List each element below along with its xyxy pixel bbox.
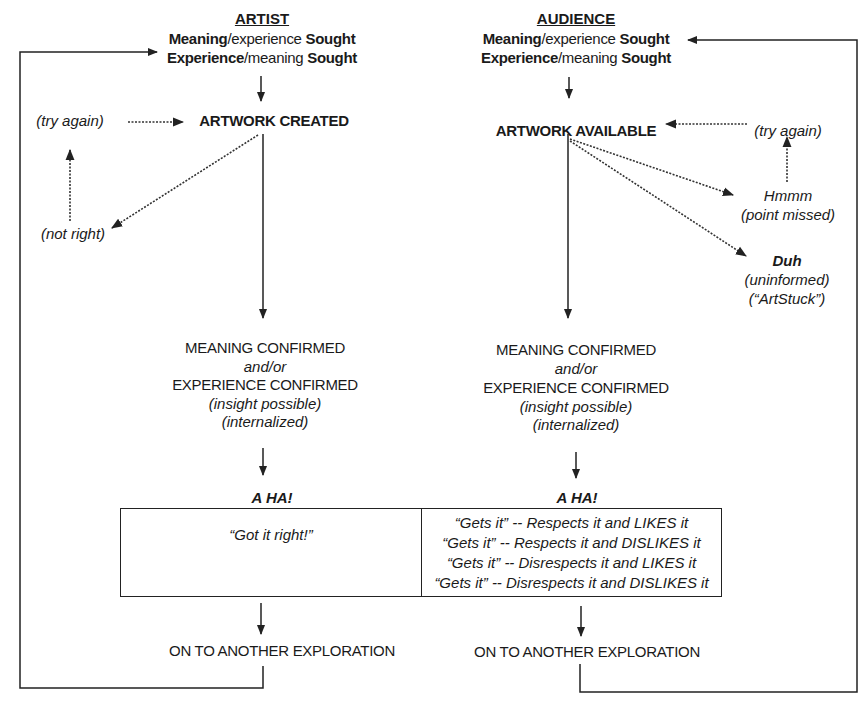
artwork-created-node: ARTWORK CREATED <box>199 111 348 130</box>
audience-aha: A HA! <box>556 488 597 507</box>
audience-duh-arrow <box>570 141 746 256</box>
artist-aha: A HA! <box>251 488 292 507</box>
audience-duh: Duh <box>772 251 801 270</box>
artist-heading: ARTIST <box>235 9 289 28</box>
audience-outcome-2: “Gets it” -- Respects it and DISLIKES it <box>442 533 700 553</box>
artist-sought-2-bold2: Sought <box>307 49 357 66</box>
audience-sought-2-bold2: Sought <box>621 49 671 66</box>
audience-sought-2-bold: Experience <box>481 49 558 66</box>
artist-internalized: (internalized) <box>222 412 309 431</box>
audience-and-or: and/or <box>555 359 598 378</box>
audience-point-missed: (point missed) <box>741 205 835 224</box>
artist-next-exploration: ON TO ANOTHER EXPLORATION <box>169 641 395 660</box>
audience-outcome-cell: “Gets it” -- Respects it and LIKES it “G… <box>422 509 721 596</box>
artist-meaning-confirmed: MEANING CONFIRMED <box>185 338 345 357</box>
artist-sought-line-2: Experience/meaning Sought <box>167 48 357 67</box>
audience-try-again: (try again) <box>754 121 822 140</box>
audience-next-exploration: ON TO ANOTHER EXPLORATION <box>474 642 700 661</box>
audience-meaning-confirmed: MEANING CONFIRMED <box>496 340 656 359</box>
audience-outcome-3: “Gets it” -- Disrespects it and LIKES it <box>447 553 696 573</box>
artist-sought-line-1: Meaning/experience Sought <box>169 29 356 48</box>
artist-fail-arrow <box>112 135 258 228</box>
artist-sought-2-bold: Experience <box>167 49 244 66</box>
artist-sought-1-normal: /experience <box>227 30 305 47</box>
audience-sought-1-bold2: Sought <box>620 30 670 47</box>
audience-experience-confirmed: EXPERIENCE CONFIRMED <box>483 378 669 397</box>
audience-heading: AUDIENCE <box>537 9 615 28</box>
audience-hmmm: Hmmm <box>764 186 812 205</box>
audience-sought-line-2: Experience/meaning Sought <box>481 48 671 67</box>
audience-artstuck: (“ArtStuck”) <box>749 289 826 308</box>
audience-missed-arrow <box>570 139 733 195</box>
artist-outcome: “Got it right!” <box>229 525 312 545</box>
audience-uninformed: (uninformed) <box>744 270 829 289</box>
connector-lines <box>0 0 863 712</box>
audience-sought-1-bold: Meaning <box>483 30 542 47</box>
audience-sought-line-1: Meaning/experience Sought <box>483 29 670 48</box>
audience-outcome-4: “Gets it” -- Disrespects it and DISLIKES… <box>434 573 708 593</box>
audience-outcome-1: “Gets it” -- Respects it and LIKES it <box>455 513 688 533</box>
artist-sought-2-normal: /meaning <box>244 49 307 66</box>
artist-experience-confirmed: EXPERIENCE CONFIRMED <box>172 375 358 394</box>
artist-try-again: (try again) <box>36 111 104 130</box>
artist-insight-possible: (insight possible) <box>209 394 322 413</box>
audience-sought-1-normal: /experience <box>541 30 619 47</box>
artwork-available-node: ARTWORK AVAILABLE <box>496 121 656 140</box>
audience-sought-2-normal: /meaning <box>558 49 621 66</box>
artist-outcome-cell: “Got it right!” <box>121 509 421 596</box>
artist-sought-1-bold2: Sought <box>306 30 356 47</box>
audience-internalized: (internalized) <box>533 415 620 434</box>
artist-and-or: and/or <box>244 357 287 376</box>
outcome-table: “Got it right!” “Gets it” -- Respects it… <box>120 508 722 597</box>
artist-not-right: (not right) <box>41 224 105 243</box>
artist-sought-1-bold: Meaning <box>169 30 228 47</box>
audience-insight-possible: (insight possible) <box>520 397 633 416</box>
